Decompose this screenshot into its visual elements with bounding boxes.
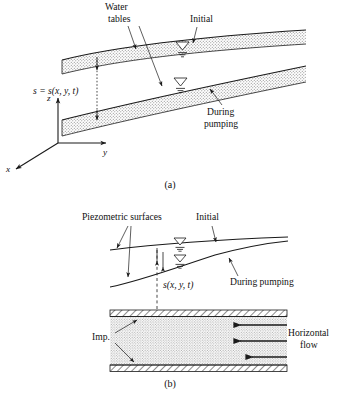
pumping-water-table-band <box>62 66 306 136</box>
drawdown-label-b: s(x, y, t) <box>163 279 193 291</box>
upper-impermeable-layer <box>110 310 287 317</box>
horizontal-flow-label-line1: Horizontal <box>288 327 329 338</box>
water-table-triangle-icon-pumping-b <box>174 255 186 268</box>
during-pumping-label-a-line2: pumping <box>204 118 238 129</box>
initial-leader-b <box>212 226 216 242</box>
pumping-band-lower-edge <box>62 82 306 136</box>
piezometric-leader-upper <box>117 226 128 248</box>
lower-impermeable-layer <box>110 365 287 372</box>
initial-label-a: Initial <box>190 13 213 24</box>
stipple-fill-pumping <box>62 66 306 136</box>
during-pumping-label-b-line1: During pumping <box>230 276 294 287</box>
panel-b: s(x, y, t) Piezometric surfaces <box>82 211 329 390</box>
water-tables-label-line2: tables <box>108 13 131 24</box>
y-axis-label: y <box>102 147 108 157</box>
hydrogeology-drawdown-figure: s = s(x, y, t) Water tables Initial <box>0 0 340 398</box>
initial-water-table-band <box>62 30 306 74</box>
panel-b-caption: (b) <box>164 378 176 390</box>
impermeable-label: Imp. <box>92 331 110 342</box>
z-axis-label: z <box>46 93 51 103</box>
water-tables-leader-upper <box>128 26 136 49</box>
water-table-triangle-icon-pumping-a <box>174 78 187 93</box>
drawdown-dimension-arrow-b <box>157 248 163 268</box>
water-table-triangle-icon-initial-b <box>174 238 186 251</box>
figure-container: s = s(x, y, t) Water tables Initial <box>0 0 340 398</box>
drawdown-label-a: s = s(x, y, t) <box>33 85 78 97</box>
piezometric-surfaces-label: Piezometric surfaces <box>82 211 162 222</box>
piezometric-leader-lower <box>128 226 131 277</box>
coordinate-axes-3d: z y x <box>5 93 108 174</box>
panel-a-caption: (a) <box>164 179 175 191</box>
initial-label-b: Initial <box>196 211 219 222</box>
during-pumping-leader-b <box>229 258 238 276</box>
panel-a: s = s(x, y, t) Water tables Initial <box>5 1 306 191</box>
during-pumping-label-a-line1: During <box>207 106 234 117</box>
initial-piezometric-surface <box>110 237 288 250</box>
water-tables-label-line1: Water <box>105 1 128 12</box>
x-axis <box>16 143 58 169</box>
horizontal-flow-label-line2: flow <box>300 339 318 350</box>
x-axis-label: x <box>5 164 11 174</box>
